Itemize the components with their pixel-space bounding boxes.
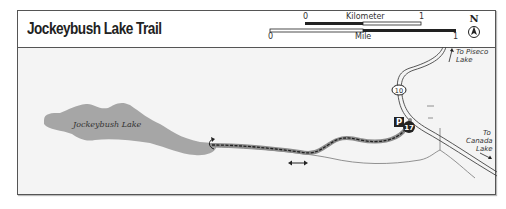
km-scale-bar xyxy=(305,22,421,25)
north-arrow-icon: N xyxy=(469,13,480,38)
parking-icon: P xyxy=(394,117,404,127)
canada-label-line1: To xyxy=(483,129,491,137)
canada-label-line3: Lake xyxy=(476,145,493,153)
route-10-road xyxy=(397,47,497,176)
marsh-symbol xyxy=(427,106,434,118)
canada-arrow-icon xyxy=(480,153,492,159)
trailhead-marker-icon: 17 xyxy=(403,121,415,133)
piseco-label-line2: Lake xyxy=(456,56,473,64)
route-shield-icon: 10 xyxy=(392,85,406,95)
mile-scale-bar xyxy=(270,29,456,32)
piseco-label-line1: To Piseco xyxy=(456,48,488,56)
map-canvas: N Jockeybush Lake 10 P xyxy=(0,0,506,209)
lake-shape xyxy=(44,103,216,155)
svg-text:10: 10 xyxy=(395,87,403,95)
secondary-path xyxy=(215,147,440,164)
lake-label: Jockeybush Lake xyxy=(71,120,142,129)
svg-text:P: P xyxy=(396,117,402,127)
trail-casing xyxy=(212,120,410,153)
svg-text:17: 17 xyxy=(404,124,414,132)
piseco-arrow-icon xyxy=(449,48,454,62)
canada-label-line2: Canada xyxy=(466,137,493,145)
direction-arrow-icon xyxy=(288,161,308,166)
svg-text:N: N xyxy=(469,13,478,24)
